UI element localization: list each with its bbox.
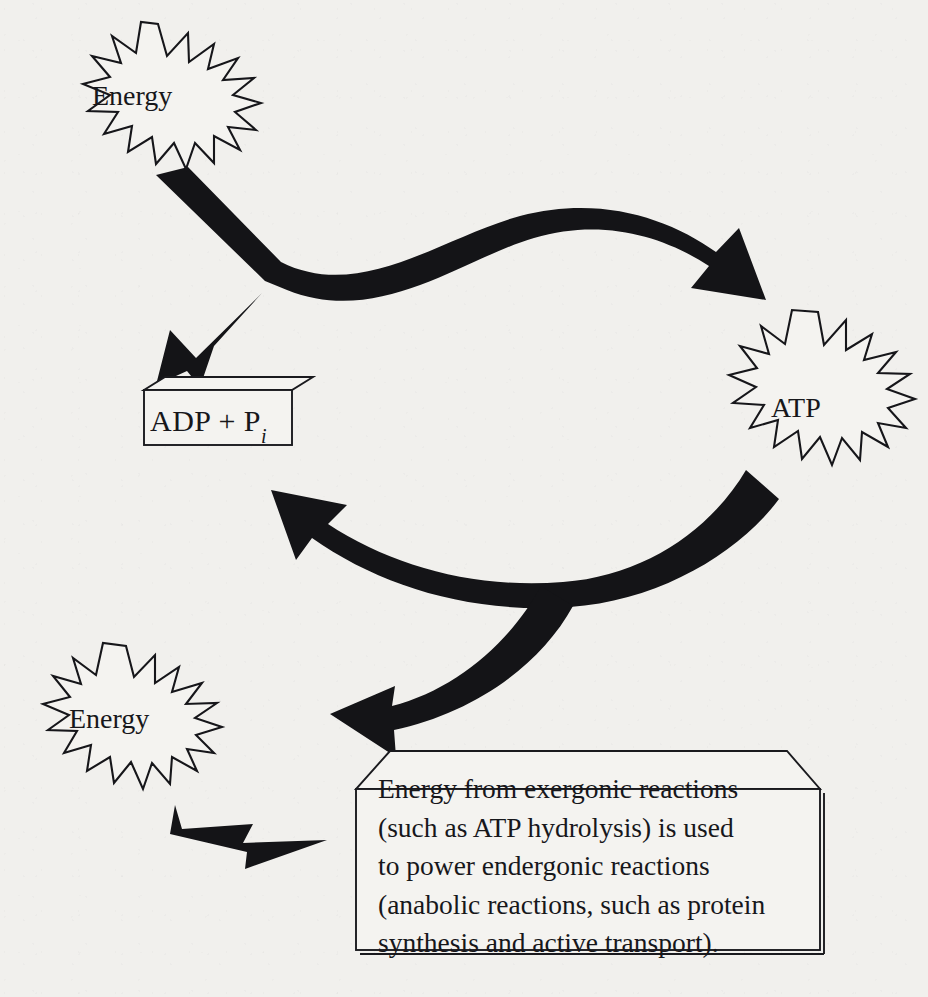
label-adp-subscript: i bbox=[261, 425, 267, 447]
callout-line-1: Energy from exergonic reactions bbox=[378, 770, 798, 809]
label-adp-box: ADP + Pi bbox=[150, 404, 267, 443]
arrow-adp-to-junction bbox=[156, 293, 262, 387]
arrow-branch-to-energy bbox=[330, 586, 573, 757]
adp-box-lid bbox=[144, 377, 313, 390]
label-atp: ATP bbox=[771, 392, 821, 424]
arrow-atp-to-adp bbox=[271, 470, 779, 608]
label-energy-bottom: Energy bbox=[69, 703, 149, 735]
label-energy-top: Energy bbox=[92, 80, 172, 112]
arrow-energy-to-atp bbox=[156, 167, 766, 301]
callout-line-3: to power endergonic reactions bbox=[378, 847, 798, 886]
callout-line-5: synthesis and active transport). bbox=[378, 924, 798, 963]
callout-paragraph: Energy from exergonic reactions (such as… bbox=[378, 770, 798, 963]
figure-canvas: Energy ATP Energy ADP + Pi Energy from e… bbox=[0, 0, 928, 997]
label-adp-main: ADP + P bbox=[150, 404, 261, 437]
burst-atp bbox=[729, 310, 915, 465]
callout-line-2: (such as ATP hydrolysis) is used bbox=[378, 809, 798, 848]
arrow-energy-to-callout bbox=[170, 805, 327, 869]
callout-line-4: (anabolic reactions, such as protein bbox=[378, 886, 798, 925]
